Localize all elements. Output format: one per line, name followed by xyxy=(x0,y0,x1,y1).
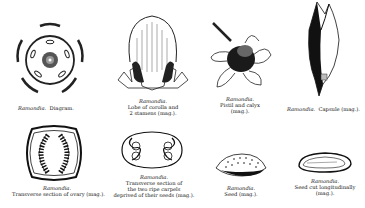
caption-ovary-section: Ramondia. Transverse section of ovary (m… xyxy=(12,185,102,197)
capsule-illustration xyxy=(305,0,345,100)
seed-illustration xyxy=(214,150,268,178)
pistil-calyx-illustration xyxy=(205,15,275,90)
caption-carpels-section: Ramondia. Transverse section of the two … xyxy=(108,174,200,198)
caption-diagram: Ramondia. Diagram. xyxy=(18,105,74,111)
carpels-section-illustration xyxy=(120,130,184,170)
caption-capsule: Ramondia. Capsule (mag.). xyxy=(287,106,360,112)
seed-longitudinal-illustration xyxy=(295,150,355,174)
caption-seed-longitudinal: Ramondia. Seed cut longitudinally (mag.)… xyxy=(290,178,360,196)
caption-pistil-calyx: Ramondia. Pistil and calyx (mag.). xyxy=(212,96,268,114)
floral-diagram-illustration xyxy=(10,18,90,98)
caption-seed: Ramondia. Seed (mag.). xyxy=(216,185,266,197)
ovary-section-illustration xyxy=(22,125,86,181)
caption-lobe-corolla: Ramondia. Lobe of corolla and 2 stamens … xyxy=(118,98,188,116)
corolla-lobe-illustration xyxy=(118,10,188,90)
